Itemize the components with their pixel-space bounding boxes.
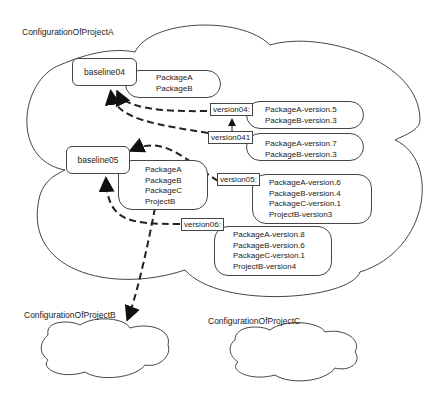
package-item: ProjectB <box>145 197 207 208</box>
version05-tag[interactable]: version05: <box>217 173 260 186</box>
cloud-label-project-c: ConfigurationOfProjectC <box>208 316 300 326</box>
version04-items: PackageA-version.5 PackageB-version.3 <box>246 101 364 129</box>
version-item: PackageB-version.6 <box>233 241 331 252</box>
baseline05-packages: PackageA PackageB PackageC ProjectB <box>118 160 208 210</box>
cloud-project-c <box>230 323 357 381</box>
version-item: PackageB-version.3 <box>265 150 363 161</box>
cloud-project-b <box>41 319 169 378</box>
version-item: PackageB-version.3 <box>265 116 363 127</box>
version06-tag[interactable]: version06: <box>181 218 224 231</box>
version-item: ProjectB-version4 <box>233 262 331 273</box>
package-item: PackageB <box>156 84 220 95</box>
baseline04-packages: PackageA PackageB <box>125 70 221 98</box>
package-item: PackageA <box>156 73 220 84</box>
version04-tag[interactable]: version04: <box>210 103 253 116</box>
version06-items: PackageA-version.8 PackageB-version.6 Pa… <box>214 226 332 276</box>
package-item: PackageA <box>145 165 207 176</box>
package-item: PackageB <box>145 176 207 187</box>
version05-items: PackageA-version.6 PackageB-version.4 Pa… <box>252 174 372 224</box>
diagram-canvas <box>0 0 444 408</box>
version-item: PackageB-version.4 <box>269 189 371 200</box>
version-item: PackageC-version.1 <box>233 251 331 262</box>
version041-tag[interactable]: version041 <box>208 131 253 144</box>
version-item: PackageA-version.8 <box>233 230 331 241</box>
version041-items: PackageA-version.7 PackageB-version.3 <box>246 133 364 161</box>
baseline04-node[interactable]: baseline04 <box>72 58 137 86</box>
cloud-label-project-a: ConfigurationOfProjectA <box>22 27 114 37</box>
baseline05-node[interactable]: baseline05 <box>66 146 130 174</box>
package-item: PackageC <box>145 186 207 197</box>
version-item: PackageA-version.7 <box>265 139 363 150</box>
version-item: PackageC-version.1 <box>269 199 371 210</box>
cloud-label-project-b: ConfigurationOfProjectB <box>24 310 116 320</box>
version-item: PackageA-version.6 <box>269 178 371 189</box>
version-item: ProjectB-version3 <box>269 210 371 221</box>
version-item: PackageA-version.5 <box>265 105 363 116</box>
